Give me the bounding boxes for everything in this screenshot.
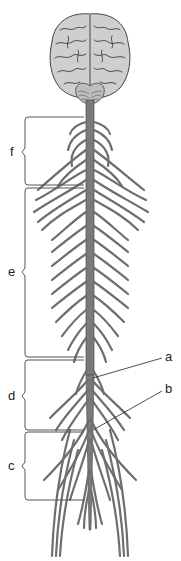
brain [50, 14, 130, 104]
bracket-e [22, 188, 84, 357]
leader-a [93, 358, 162, 378]
label-e: e [8, 265, 15, 278]
leader-b [93, 391, 162, 430]
nervous-system-diagram [0, 0, 181, 561]
label-d: d [8, 389, 15, 402]
label-b: b [165, 382, 172, 395]
label-a: a [165, 350, 172, 363]
label-f: f [10, 145, 14, 158]
spinal-cord [86, 100, 94, 530]
label-c: c [8, 459, 15, 472]
